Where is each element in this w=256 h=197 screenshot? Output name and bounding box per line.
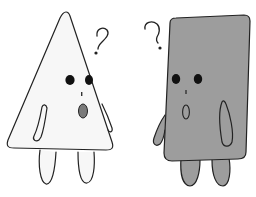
block-right-leg (212, 158, 230, 186)
block-character (153, 15, 250, 186)
cone-mouth (79, 104, 88, 118)
block-left-leg (181, 158, 200, 186)
block-mouth (183, 105, 190, 119)
cone-left-eye (65, 75, 74, 85)
cone-question-mark-icon (94, 28, 108, 54)
cone-nose (81, 92, 82, 96)
illustration (0, 0, 256, 197)
block-body (164, 15, 250, 161)
block-left-eye (172, 74, 180, 84)
cone-right-leg (78, 152, 94, 183)
cone-right-eye (85, 75, 93, 85)
cone-left-leg (39, 150, 56, 184)
block-nose (185, 90, 186, 94)
block-left-arm (153, 115, 165, 145)
cone-character (7, 12, 113, 184)
block-question-mark-icon (145, 22, 162, 50)
block-right-eye (194, 74, 202, 84)
